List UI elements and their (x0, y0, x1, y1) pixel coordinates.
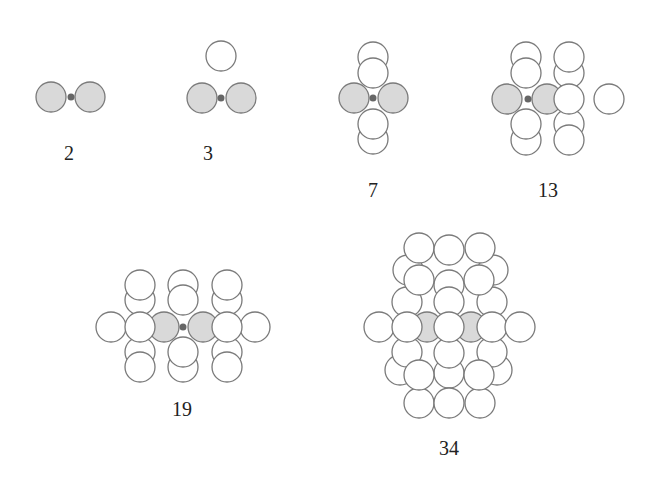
open-atom (168, 337, 198, 367)
shaded-atom (226, 83, 256, 113)
cluster-size-label: 19 (172, 398, 192, 420)
open-atom (125, 352, 155, 382)
shaded-atom (187, 83, 217, 113)
open-atom (240, 312, 270, 342)
open-atom (168, 285, 198, 315)
open-atom (505, 312, 535, 342)
open-atom (212, 270, 242, 300)
open-atom (358, 58, 388, 88)
center-dot (370, 95, 377, 102)
open-atom (511, 58, 541, 88)
open-atom (434, 388, 464, 418)
center-dot (218, 95, 225, 102)
cluster-size-label: 2 (64, 142, 74, 164)
open-atom (212, 352, 242, 382)
open-atom (465, 233, 495, 263)
open-atom (594, 84, 624, 114)
shaded-atom (75, 82, 105, 112)
open-atom (554, 42, 584, 72)
shaded-atom (492, 84, 522, 114)
shaded-atom (339, 83, 369, 113)
open-atom (404, 265, 434, 295)
shaded-atom (36, 82, 66, 112)
open-atom (206, 41, 236, 71)
cluster-diagram: 237131934 (0, 0, 648, 481)
shaded-atom (378, 83, 408, 113)
open-atom (404, 360, 434, 390)
cluster-size-label: 34 (439, 437, 459, 459)
open-atom (96, 312, 126, 342)
center-dot (68, 94, 75, 101)
cluster-size-label: 13 (538, 179, 558, 201)
center-dot (525, 96, 532, 103)
open-atom (511, 109, 541, 139)
open-atom (392, 312, 422, 342)
open-atom (434, 312, 464, 342)
open-atom (125, 312, 155, 342)
open-atom (212, 312, 242, 342)
open-atom (364, 312, 394, 342)
background (0, 0, 648, 481)
open-atom (465, 388, 495, 418)
open-atom (464, 360, 494, 390)
cluster-size-label: 3 (203, 142, 213, 164)
open-atom (125, 270, 155, 300)
open-atom (358, 109, 388, 139)
open-atom (404, 388, 434, 418)
open-atom (554, 84, 584, 114)
open-atom (554, 125, 584, 155)
open-atom (404, 233, 434, 263)
open-atom (434, 235, 464, 265)
open-atom (464, 265, 494, 295)
cluster-size-label: 7 (368, 179, 378, 201)
center-dot (180, 324, 187, 331)
open-atom (477, 312, 507, 342)
